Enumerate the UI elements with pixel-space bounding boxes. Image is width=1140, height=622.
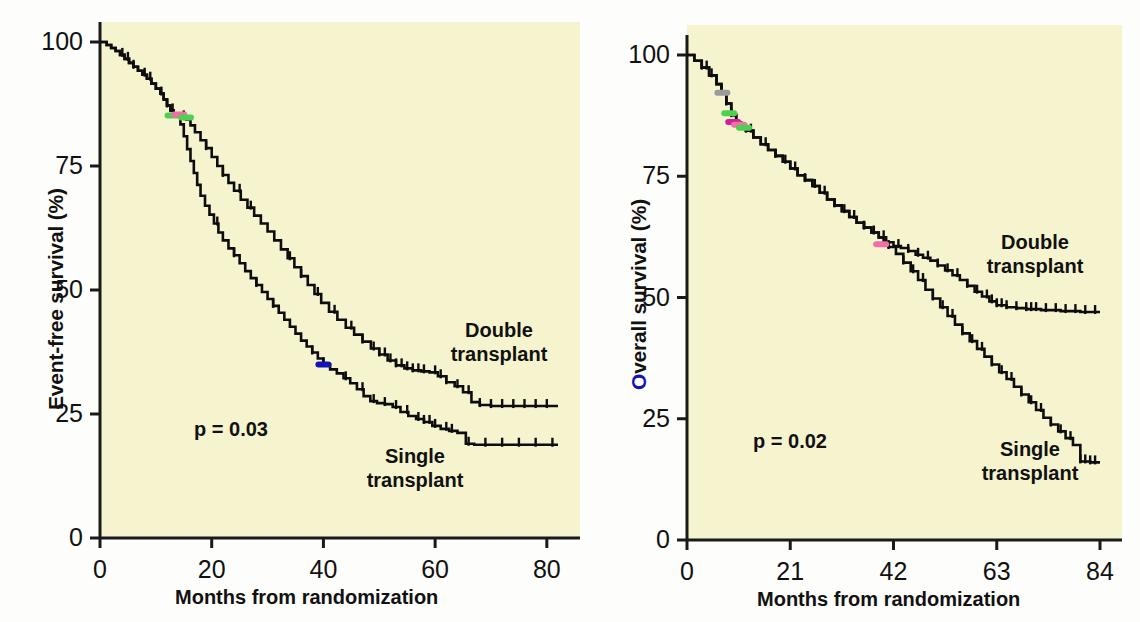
y-tick-label-25: 25: [642, 404, 670, 432]
x-tick-label-0: 0: [93, 555, 107, 583]
x-tick-label-21: 21: [776, 557, 804, 585]
panel-overall-survival: 0255075100021426384 Overall survival (%)…: [590, 0, 1140, 622]
curve-label-single-right: Single transplant: [950, 437, 1110, 486]
p-value-annotation-right: p = 0.02: [753, 430, 827, 453]
y-axis-title-left: Event-free survival (%): [44, 188, 68, 410]
curve-label-single-line2: transplant: [982, 462, 1079, 484]
y-tick-label-75: 75: [55, 151, 83, 179]
curve-label-single-line2: transplant: [367, 469, 464, 491]
p-value-annotation-left: p = 0.03: [194, 418, 268, 441]
curve-label-double-right: Double transplant: [955, 230, 1115, 279]
curve-label-double-line1: Double: [465, 319, 533, 341]
y-axis-title-right: Overall survival (%): [627, 199, 651, 390]
x-tick-label-40: 40: [310, 555, 338, 583]
curve-label-single-line1: Single: [1000, 438, 1060, 460]
censor-marks-single-transplant: [128, 52, 552, 447]
y-tick-label-100: 100: [41, 27, 83, 55]
x-tick-label-20: 20: [198, 555, 226, 583]
y-tick-label-75: 75: [642, 161, 670, 189]
x-tick-label-60: 60: [421, 555, 449, 583]
curve-label-double-line1: Double: [1001, 231, 1069, 253]
x-tick-label-84: 84: [1086, 557, 1114, 585]
y-tick-label-0: 0: [656, 525, 670, 553]
y-axis-title-rest: verall survival (%): [627, 199, 650, 374]
x-tick-label-0: 0: [680, 557, 694, 585]
x-tick-label-42: 42: [880, 557, 908, 585]
panel-event-free-survival: 0255075100020406080 Event-free survival …: [0, 0, 590, 622]
curve-label-single-left: Single transplant: [340, 444, 490, 493]
curve-label-double-line2: transplant: [987, 255, 1084, 277]
curve-label-double-line2: transplant: [451, 343, 548, 365]
x-axis-title-right: Months from randomization: [757, 588, 1020, 611]
figure-canvas: 0255075100020406080 Event-free survival …: [0, 0, 1140, 622]
y-tick-label-0: 0: [69, 523, 83, 551]
x-axis-title-left: Months from randomization: [175, 586, 438, 609]
curve-label-single-line1: Single: [385, 445, 445, 467]
x-tick-label-80: 80: [533, 555, 561, 583]
y-axis-title-initial: O: [627, 374, 650, 390]
x-tick-label-63: 63: [983, 557, 1011, 585]
kaplan-meier-chart-left: 0255075100020406080: [0, 0, 590, 622]
y-tick-label-100: 100: [628, 40, 670, 68]
curve-label-double-left: Double transplant: [424, 318, 574, 367]
survival-curve-single-transplant: [100, 42, 558, 445]
kaplan-meier-chart-right: 0255075100021426384: [590, 0, 1140, 622]
